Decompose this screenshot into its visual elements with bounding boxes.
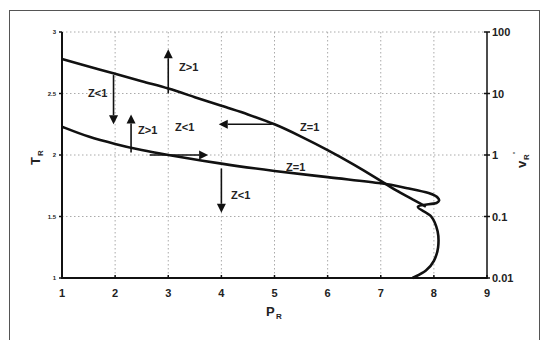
grid-lines: [62, 32, 487, 278]
x-tick-label: 2: [112, 287, 118, 299]
y-tick-label: 1: [53, 275, 57, 281]
y-tick-label: 1.5: [48, 214, 57, 220]
y-tick-label: 3: [53, 29, 57, 35]
y2-axis-title-main: v: [514, 160, 529, 168]
y2-tick-label: 100: [492, 26, 510, 38]
x-tick-label: 7: [378, 287, 384, 299]
annotation-label: Z<1: [175, 121, 194, 133]
x-tick-label: 8: [431, 287, 437, 299]
y2-axis-title-sub: R: [522, 154, 531, 160]
y2-tick-label: 0.1: [492, 211, 507, 223]
x-tick-label: 9: [484, 287, 490, 299]
annotation-label: Z>1: [179, 61, 198, 73]
x-tick-label: 4: [218, 287, 225, 299]
annotation-label: Z=1: [300, 121, 319, 133]
arrow-down-icon: [109, 75, 118, 124]
data-series: [62, 59, 439, 278]
y2-tick-label: 10: [492, 88, 504, 100]
x-tick-label: 3: [165, 287, 171, 299]
y-axis-title-main: T: [28, 157, 43, 165]
arrow-down-icon: [217, 169, 226, 213]
x-axis-title-sub: R: [276, 312, 282, 321]
annotation-label: Z<1: [231, 189, 250, 201]
x-tick-label: 5: [271, 287, 277, 299]
y2-tick-label: 1: [492, 149, 498, 161]
y2-axis-title: v R ': [511, 152, 531, 168]
upper-z1-curve: [62, 59, 426, 207]
annotation-label: Z>1: [138, 124, 157, 136]
x-tick-label: 6: [325, 287, 331, 299]
y2-tick-label: 0.01: [492, 272, 513, 284]
y-tick-label: 2: [53, 152, 57, 158]
y-axis-title: T R: [28, 150, 45, 165]
annotation-label: Z<1: [88, 87, 107, 99]
x-tick-label: 1: [59, 287, 65, 299]
axis-ticks: 12345678911.522.530.010.1110100: [48, 26, 514, 299]
x-axis-title-main: P: [266, 304, 275, 319]
y-axis-title-sub: R: [36, 150, 45, 156]
arrow-right-icon: [150, 151, 208, 160]
y2-axis-title-sup: ': [511, 152, 520, 154]
x-axis-title: P R: [266, 304, 282, 321]
y-tick-label: 2.5: [48, 91, 57, 97]
lower-z1-curve: [62, 127, 439, 278]
annotation-label: Z=1: [286, 161, 305, 173]
